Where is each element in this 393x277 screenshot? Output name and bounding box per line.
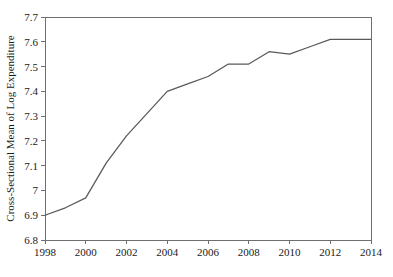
y-tick-label: 7.5 [24, 61, 38, 73]
chart-container: 6.86.977.17.27.37.47.57.67.7 19982000200… [0, 0, 393, 277]
line-chart: 6.86.977.17.27.37.47.57.67.7 19982000200… [0, 0, 393, 277]
x-tick-label: 2002 [116, 246, 138, 258]
y-tick-label: 7.7 [24, 11, 38, 23]
x-tick-label: 2012 [319, 246, 341, 258]
x-tick-label: 2004 [156, 246, 179, 258]
y-tick-label: 6.9 [24, 209, 38, 221]
y-tick-label: 7.2 [24, 135, 38, 147]
chart-background [0, 0, 393, 277]
y-tick-label: 7 [33, 184, 39, 196]
x-tick-label: 2006 [197, 246, 220, 258]
x-tick-label: 2010 [279, 246, 302, 258]
x-tick-label: 2000 [75, 246, 98, 258]
x-tick-label: 2008 [238, 246, 261, 258]
y-axis-title: Cross-Sectional Mean of Log Expenditure [4, 35, 16, 221]
x-tick-label: 1998 [34, 246, 57, 258]
y-tick-label: 7.4 [24, 85, 38, 97]
y-axis-title-label: Cross-Sectional Mean of Log Expenditure [4, 35, 16, 221]
y-tick-label: 7.6 [24, 36, 38, 48]
x-tick-label: 2014 [360, 246, 383, 258]
y-tick-label: 7.1 [24, 160, 38, 172]
y-tick-label: 6.8 [24, 234, 38, 246]
y-tick-label: 7.3 [24, 110, 38, 122]
